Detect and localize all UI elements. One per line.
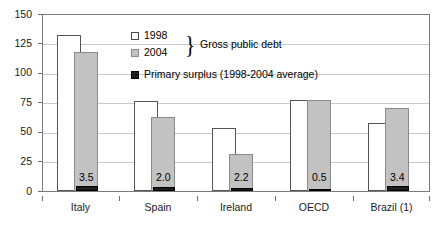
y-tick-label: 25	[20, 156, 32, 167]
bar-chart: 150 125 100 75 50 25 0 3.5	[0, 0, 445, 237]
x-tick-mark	[42, 196, 43, 201]
y-tick-label: 125	[14, 38, 32, 49]
legend-label-primary-surplus: Primary surplus (1998-2004 average)	[144, 69, 318, 80]
x-tick-mark	[197, 196, 198, 201]
bar-surplus-italy[interactable]	[76, 186, 98, 191]
x-tick-label-oecd: OECD	[275, 202, 353, 213]
y-axis: 150 125 100 75 50 25 0	[0, 0, 38, 237]
x-tick-mark	[275, 196, 276, 201]
x-axis: Italy Spain Ireland OECD Brazil (1)	[42, 196, 430, 224]
black-square-icon	[131, 71, 139, 79]
x-tick-label-ireland: Ireland	[197, 202, 275, 213]
legend-item-primary-surplus[interactable]: Primary surplus (1998-2004 average)	[131, 67, 318, 82]
x-tick-mark	[429, 196, 430, 201]
x-tick-mark	[353, 196, 354, 201]
bar-surplus-oecd[interactable]	[309, 189, 331, 191]
y-tick-label: 75	[20, 97, 32, 108]
legend-label-1998: 1998	[144, 30, 167, 41]
legend-brace-group: } Gross public debt	[184, 28, 282, 60]
bar-surplus-ireland[interactable]	[231, 188, 253, 192]
x-tick-mark	[119, 196, 120, 201]
y-tick-label: 50	[20, 126, 32, 137]
legend-brace-label: Gross public debt	[200, 39, 282, 50]
bar-label-ireland: 2.2	[234, 172, 249, 183]
bar-label-spain: 2.0	[156, 172, 171, 183]
bar-label-oecd: 0.5	[312, 172, 327, 183]
x-tick-label-italy: Italy	[42, 202, 119, 213]
bar-surplus-brazil[interactable]	[387, 186, 409, 191]
bar-group-italy: 3.5	[43, 15, 120, 191]
legend-label-2004: 2004	[144, 47, 167, 58]
gray-square-icon	[131, 49, 139, 57]
y-tick-label: 0	[26, 186, 32, 197]
bar-surplus-spain[interactable]	[153, 187, 175, 191]
x-tick-label-brazil: Brazil (1)	[353, 202, 430, 213]
y-tick-label: 100	[14, 67, 32, 78]
bar-group-brazil: 3.4	[354, 15, 431, 191]
bar-label-italy: 3.5	[79, 172, 94, 183]
white-square-icon	[131, 32, 139, 40]
bar-label-brazil: 3.4	[390, 172, 405, 183]
y-tick-label: 150	[14, 9, 32, 20]
x-tick-label-spain: Spain	[119, 202, 197, 213]
legend: 1998 2004 Primary surplus (1998-2004 ave…	[131, 28, 318, 84]
curly-brace-icon: }	[185, 32, 195, 57]
